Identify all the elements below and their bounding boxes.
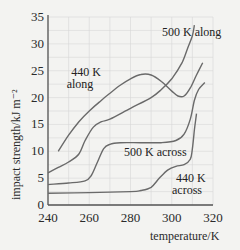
line-chart: 24026028030032005101520253035 440 Kalong…	[0, 0, 240, 250]
y-axis-label: impact strength/kJ m⁻²	[9, 89, 23, 200]
y-tick-label: 5	[38, 170, 45, 185]
y-tick-label: 20	[31, 90, 44, 105]
y-tick-label: 15	[31, 116, 44, 131]
x-axis-label: temperature/K	[150, 229, 220, 243]
curve-label-440-k-across: across	[172, 183, 202, 197]
x-tick-label: 280	[121, 210, 141, 225]
x-tick-label: 300	[162, 210, 182, 225]
x-tick-label: 320	[203, 210, 223, 225]
y-tick-label: 10	[31, 143, 44, 158]
data-curves	[48, 25, 205, 193]
curve-label-500-k-across: 500 K across	[124, 145, 187, 159]
curve-label-500-k-along: 500 K along	[162, 25, 221, 39]
y-tick-label: 30	[31, 36, 44, 51]
y-tick-label: 35	[31, 9, 44, 24]
y-tick-label: 25	[31, 63, 44, 78]
y-tick-label: 0	[38, 197, 45, 212]
x-tick-label: 240	[38, 210, 58, 225]
x-tick-label: 260	[80, 210, 100, 225]
curve-label-440-k-along: along	[67, 77, 94, 91]
chart-panel: 24026028030032005101520253035 440 Kalong…	[0, 0, 240, 250]
